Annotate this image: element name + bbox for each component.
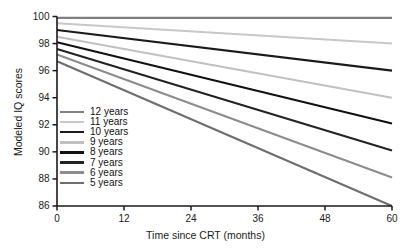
legend-color-swatch: [60, 111, 84, 113]
x-tick-label: 48: [310, 213, 340, 224]
legend-item: 8 years: [60, 147, 128, 157]
y-tick-label: 90: [24, 146, 50, 157]
y-tick-label: 86: [24, 200, 50, 211]
chart-figure: 86889092949698100 01224364860 Time since…: [0, 0, 411, 250]
legend-color-swatch: [60, 131, 84, 133]
series-line: [57, 37, 392, 98]
y-tick-label: 96: [24, 65, 50, 76]
chart-legend: 12 years11 years10 years9 years8 years7 …: [60, 107, 128, 188]
x-axis-title: Time since CRT (months): [0, 229, 411, 241]
legend-color-swatch: [60, 182, 84, 184]
legend-label: 5 years: [90, 178, 123, 188]
x-tick-label: 36: [243, 213, 273, 224]
legend-color-swatch: [60, 141, 84, 143]
x-tick-label: 0: [42, 213, 72, 224]
y-tick-label: 88: [24, 173, 50, 184]
legend-color-swatch: [60, 161, 84, 163]
legend-color-swatch: [60, 121, 84, 123]
y-tick-label: 98: [24, 38, 50, 49]
series-line: [57, 23, 392, 43]
legend-label: 8 years: [90, 147, 123, 157]
y-tick-label: 92: [24, 119, 50, 130]
legend-color-swatch: [60, 171, 84, 173]
x-tick-label: 60: [377, 213, 407, 224]
legend-color-swatch: [60, 151, 84, 153]
y-tick-label: 94: [24, 92, 50, 103]
legend-item: 5 years: [60, 178, 128, 188]
y-tick-label: 100: [24, 11, 50, 22]
x-tick-label: 12: [109, 213, 139, 224]
x-tick-label: 24: [176, 213, 206, 224]
y-axis-title: Modeled IQ scores: [12, 42, 24, 182]
